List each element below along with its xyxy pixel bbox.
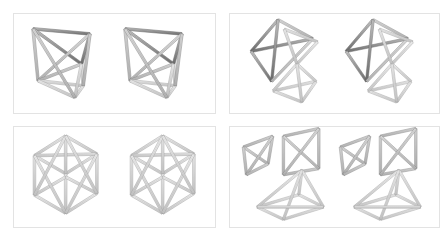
- strut-edge-highlight: [273, 90, 301, 101]
- panel-exploded-frame-components: [229, 126, 440, 228]
- stereo-view-d-left: [238, 127, 335, 227]
- panel-paired-tetrahedra-frame: [229, 13, 440, 114]
- strut-frame-drawing: [18, 131, 115, 223]
- strut-edge-highlight: [380, 207, 420, 219]
- stereo-view-b-right: [335, 14, 430, 113]
- panel-cubic-cage-frame: [13, 126, 216, 228]
- strut-edge-highlight: [257, 207, 283, 219]
- stereo-pair-d: [230, 127, 439, 227]
- strut-frame-drawing: [115, 131, 212, 223]
- stereo-pair-a: [14, 14, 215, 113]
- figure-root: Stereo pairs of polyhedral strut-frame s…: [0, 0, 445, 249]
- strut-edge-highlight: [368, 90, 396, 101]
- stereo-view-a-left: [23, 14, 115, 113]
- strut-edge-highlight: [283, 207, 323, 219]
- strut-frame-drawing: [335, 127, 432, 227]
- strut-frame-drawing: [115, 20, 207, 108]
- stereo-pair-c: [14, 127, 215, 227]
- strut-frame-drawing: [335, 15, 430, 113]
- strut-frame-drawing: [238, 127, 335, 227]
- strut-edge-highlight: [346, 51, 367, 81]
- stereo-view-c-right: [115, 127, 212, 227]
- strut-edge-highlight: [354, 207, 380, 219]
- strut-edge-highlight: [278, 19, 313, 38]
- strut-edge-highlight: [366, 19, 372, 81]
- strut-frame-drawing: [240, 15, 335, 113]
- panel-octahedral-bipyramid-frame: [13, 13, 216, 114]
- strut-edge-highlight: [373, 19, 408, 38]
- strut-frame-drawing: [23, 20, 115, 108]
- stereo-view-a-right: [115, 14, 207, 113]
- strut-edge-highlight: [271, 19, 277, 81]
- stereo-view-c-left: [18, 127, 115, 227]
- stereo-pair-b: [230, 14, 439, 113]
- stereo-view-b-left: [240, 14, 335, 113]
- strut-edge-highlight: [251, 51, 272, 81]
- stereo-view-d-right: [335, 127, 432, 227]
